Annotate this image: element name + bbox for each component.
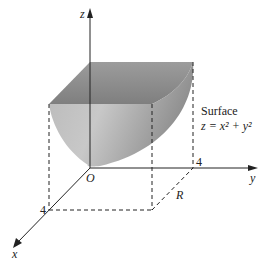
- y-axis-label: y: [249, 171, 256, 185]
- x-axis: [18, 168, 90, 242]
- z-axis-arrow-icon: [87, 8, 93, 18]
- x-tick-label: 4: [40, 203, 46, 217]
- surface-equation: z = x² + y²: [200, 119, 252, 133]
- origin-label: O: [86, 171, 95, 185]
- region-label: R: [175, 188, 184, 202]
- z-axis-label: z: [79, 7, 85, 21]
- paraboloid-diagram: z y x O 4 4 R Surface z = x² + y²: [0, 0, 270, 266]
- x-axis-label: x: [11, 247, 18, 261]
- y-tick-label: 4: [196, 155, 202, 169]
- surface-label: Surface: [201, 104, 238, 118]
